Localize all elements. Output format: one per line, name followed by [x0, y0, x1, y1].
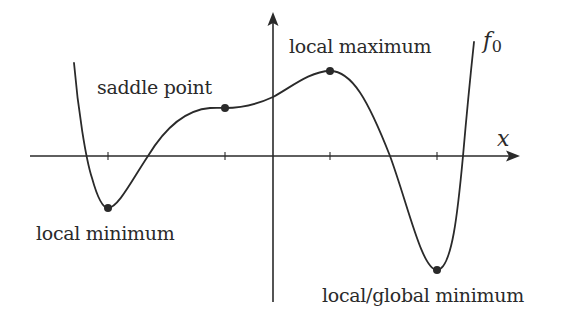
optimization-landscape-diagram: saddle point local maximum local minimum…: [0, 0, 574, 325]
local-maximum-label: local maximum: [289, 37, 431, 56]
global-minimum-point: [433, 266, 441, 274]
local-minimum-point: [104, 204, 112, 212]
function-subscript: 0: [492, 37, 502, 56]
local-minimum-label: local minimum: [36, 224, 174, 243]
saddle-point-marker: [221, 104, 229, 112]
local-maximum-point: [326, 67, 334, 75]
function-label: f0: [483, 30, 502, 52]
saddle-point-label: saddle point: [97, 78, 212, 97]
global-minimum-label: local/global minimum: [322, 286, 524, 305]
function-name: f: [483, 28, 491, 53]
x-axis-label: x: [497, 128, 509, 150]
